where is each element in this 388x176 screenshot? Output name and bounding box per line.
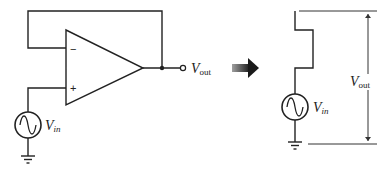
vout-label: Vout [191, 61, 212, 77]
output-terminal [180, 65, 185, 70]
ac-source-icon [282, 94, 308, 120]
inverting-input-sign: − [70, 43, 76, 55]
equivalent-circuit: Vin Vout [282, 11, 377, 149]
vin-label: Vin [313, 100, 329, 116]
noninverting-input-wire [28, 88, 66, 112]
feedback-wire [28, 11, 162, 68]
ac-source-icon [15, 112, 41, 138]
stepped-wire [295, 11, 313, 94]
junction-dot [160, 66, 164, 70]
vout-dimension-label: Vout [350, 74, 371, 90]
opamp-triangle [66, 30, 143, 105]
vin-label: Vin [45, 118, 61, 134]
transform-arrow-icon [232, 58, 259, 78]
circuit-diagram: − + Vout Vin [0, 0, 388, 176]
ground-icon [21, 156, 35, 163]
ground-icon [288, 142, 302, 149]
voltage-follower-circuit: − + Vout Vin [15, 11, 212, 163]
noninverting-input-sign: + [70, 82, 76, 94]
